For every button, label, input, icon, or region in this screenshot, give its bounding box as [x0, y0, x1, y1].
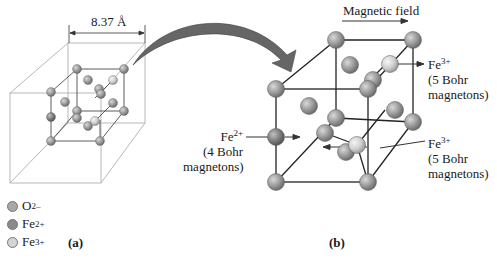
o2-ion-icon: [7, 201, 18, 212]
atoms-a: [47, 65, 129, 146]
fe3-annotation-top: Fe3+ (5 Bohr magnetons): [428, 57, 489, 102]
panel-label-b: (b): [329, 235, 345, 250]
dimension-label: 8.37 Å: [91, 14, 126, 29]
fe3-annotation-bottom: Fe3+ (5 Bohr magnetons): [428, 136, 489, 181]
fe2-ion-icon: [7, 219, 18, 230]
magnetic-field-label: Magnetic field: [343, 3, 419, 18]
legend-item-fe2: Fe2+: [7, 215, 45, 233]
legend-item-fe3: Fe3+: [7, 233, 45, 251]
fe2-annotation: Fe2+ (4 Bohr magnetons): [183, 129, 243, 174]
panel-label-a: (a): [68, 235, 83, 250]
magnetite-structure-figure: [0, 0, 497, 259]
fe3-ion-icon: [7, 237, 18, 248]
legend-item-o2: O2–: [7, 197, 40, 215]
curved-arrow-icon: [133, 23, 296, 72]
magnetic-field-arrow: [342, 19, 408, 24]
